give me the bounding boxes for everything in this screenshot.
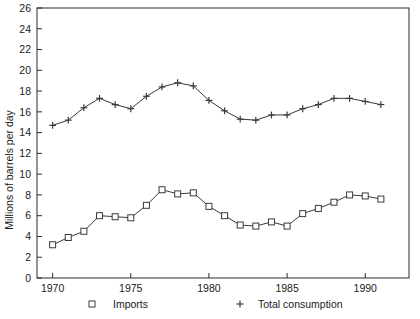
y-tick-label: 12	[19, 147, 31, 159]
data-point-marker-square	[159, 187, 165, 193]
y-tick-label: 6	[25, 209, 31, 221]
y-tick-label: 10	[19, 168, 31, 180]
y-tick-label: 16	[19, 106, 31, 118]
data-point-marker-square	[175, 191, 181, 197]
data-point-marker-square	[65, 235, 71, 241]
x-tick-label: 1980	[197, 282, 221, 294]
x-tick-label: 1990	[354, 282, 378, 294]
data-point-marker-square	[112, 214, 118, 220]
y-tick-label: 0	[25, 272, 31, 284]
data-point-marker-square	[222, 213, 228, 219]
data-point-marker-square	[362, 193, 368, 199]
x-tick-label: 1975	[119, 282, 143, 294]
y-tick-label: 14	[19, 126, 31, 138]
chart-figure: 02468101214161820222426 1970197519801985…	[0, 0, 420, 319]
y-tick-label: 2	[25, 251, 31, 263]
data-point-marker-square	[347, 192, 353, 198]
y-tick-label: 20	[19, 64, 31, 76]
legend-label: Total consumption	[258, 298, 343, 310]
data-point-marker-square	[315, 205, 321, 211]
y-tick-label: 24	[19, 23, 31, 35]
data-point-marker-square	[97, 213, 103, 219]
chart-background	[0, 0, 420, 319]
y-tick-label: 8	[25, 189, 31, 201]
data-point-marker-square	[300, 211, 306, 217]
y-tick-label: 4	[25, 230, 31, 242]
y-tick-label: 22	[19, 43, 31, 55]
data-point-marker-square	[128, 215, 134, 221]
x-tick-label: 1970	[41, 282, 65, 294]
x-tick-label: 1985	[275, 282, 299, 294]
data-point-marker-square	[268, 219, 274, 225]
data-point-marker-square	[237, 222, 243, 228]
data-point-marker-square	[143, 202, 149, 208]
data-point-marker-square	[378, 196, 384, 202]
data-point-marker-square	[253, 223, 259, 229]
data-point-marker-square	[206, 203, 212, 209]
y-tick-label: 26	[19, 2, 31, 14]
data-point-marker-square	[284, 223, 290, 229]
line-chart: 02468101214161820222426 1970197519801985…	[0, 0, 420, 319]
data-point-marker-square	[81, 228, 87, 234]
legend-marker-square	[89, 301, 95, 307]
y-axis-title: Millions of barrels per day	[3, 109, 15, 229]
data-point-marker-square	[190, 190, 196, 196]
data-point-marker-square	[331, 199, 337, 205]
legend-label: Imports	[113, 298, 148, 310]
y-tick-label: 18	[19, 85, 31, 97]
data-point-marker-square	[50, 242, 56, 248]
